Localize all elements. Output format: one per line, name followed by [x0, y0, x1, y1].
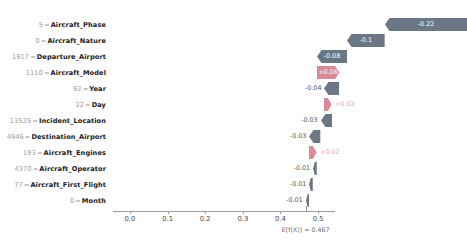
y-axis-label-aircraft_first_flight: 77=Aircraft_First_Flight [0, 181, 106, 189]
bar-value-year: -0.04 [303, 82, 321, 95]
feature-name: Departure_Airport [37, 53, 106, 61]
base-value-label: E[f(X)] = 0.467 [261, 226, 351, 233]
bar-value-aircraft_engines: +0.02 [320, 146, 340, 159]
y-axis-label-aircraft_engines: 193=Aircraft_Engines [0, 149, 106, 157]
feature-name: Day [92, 101, 106, 109]
bar-value-aircraft_phase: -0.22 [385, 18, 467, 31]
x-tick-label: 0.1 [156, 215, 180, 223]
feature-index: 4370 [15, 165, 32, 173]
x-tick [243, 211, 244, 214]
bar-value-departure_airport: -0.08 [317, 50, 347, 63]
equals-sign: = [74, 197, 82, 205]
feature-name: Aircraft_Phase [51, 21, 106, 29]
bar-aircraft_engines [309, 146, 317, 159]
x-tick-label: 0.3 [231, 215, 255, 223]
feature-index: 193 [23, 149, 36, 157]
feature-name: Incident_Location [39, 117, 106, 125]
y-axis-label-aircraft_phase: 5=Aircraft_Phase [0, 21, 106, 29]
y-axis-label-destination_airport: 4946=Destination_Airport [0, 133, 106, 141]
x-tick-label: 0.5 [306, 215, 330, 223]
bar-shape [309, 178, 313, 191]
x-axis-line [113, 211, 335, 212]
bar-year [324, 82, 339, 95]
y-axis-label-aircraft_operator: 4370=Aircraft_Operator [0, 165, 106, 173]
feature-name: Year [89, 85, 106, 93]
x-tick [205, 211, 206, 214]
bar-day [324, 98, 332, 111]
x-tick-label: 0.0 [118, 215, 142, 223]
bar-destination_airport [309, 130, 320, 143]
y-axis-label-month: 0=Month [0, 197, 106, 205]
bar-shape [324, 82, 339, 95]
bar-value-destination_airport: -0.03 [288, 130, 306, 143]
bar-shape [324, 98, 332, 111]
feature-name: Aircraft_Nature [47, 37, 106, 45]
feature-name: Aircraft_Operator [39, 165, 106, 173]
bar-shape [309, 146, 317, 159]
x-tick [280, 211, 281, 214]
equals-sign: = [29, 53, 37, 61]
y-axis-label-incident_location: 13525=Incident_Location [0, 117, 106, 125]
feature-index: 4946 [7, 133, 24, 141]
bar-aircraft_first_flight [309, 178, 313, 191]
y-axis-label-year: 92=Year [0, 85, 106, 93]
bar-value-aircraft_operator: -0.01 [292, 162, 310, 175]
feature-index: 1917 [12, 53, 29, 61]
feature-name: Destination_Airport [31, 133, 106, 141]
feature-index: 22 [75, 101, 84, 109]
bar-value-aircraft_model: +0.06 [317, 66, 340, 79]
y-axis-label-departure_airport: 1917=Departure_Airport [0, 53, 106, 61]
bar-value-day: +0.02 [335, 98, 355, 111]
x-tick [130, 211, 131, 214]
feature-name: Aircraft_Engines [44, 149, 106, 157]
x-tick-label: 0.2 [193, 215, 217, 223]
bar-value-month: -0.01 [285, 194, 303, 207]
feature-index: 92 [73, 85, 82, 93]
equals-sign: = [36, 149, 44, 157]
equals-sign: = [43, 69, 51, 77]
y-axis-label-aircraft_nature: 0=Aircraft_Nature [0, 37, 106, 45]
bar-shape [313, 162, 317, 175]
y-axis-label-aircraft_model: 1110=Aircraft_Model [0, 69, 106, 77]
equals-sign: = [43, 21, 51, 29]
x-tick-label: 0.4 [268, 215, 292, 223]
bar-value-incident_location: -0.03 [300, 114, 318, 127]
base-value-tick [306, 206, 307, 211]
bar-shape [309, 130, 320, 143]
bar-value-aircraft_first_flight: -0.01 [288, 178, 306, 191]
bar-incident_location [321, 114, 332, 127]
feature-name: Aircraft_First_Flight [30, 181, 106, 189]
bar-value-aircraft_nature: -0.1 [347, 34, 385, 47]
bar-shape [321, 114, 332, 127]
bar-aircraft_operator [313, 162, 317, 175]
feature-name: Month [82, 197, 106, 205]
feature-index: 13525 [10, 117, 31, 125]
feature-name: Aircraft_Model [51, 69, 107, 77]
equals-sign: = [84, 101, 92, 109]
x-tick [168, 211, 169, 214]
y-axis-label-day: 22=Day [0, 101, 106, 109]
x-tick [318, 211, 319, 214]
feature-index: 77 [14, 181, 23, 189]
feature-index: 1110 [26, 69, 43, 77]
equals-sign: = [31, 117, 39, 125]
